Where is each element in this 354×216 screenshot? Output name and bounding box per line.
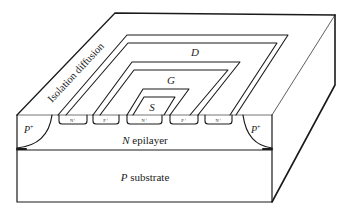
diffusion-label-4: P⁺	[181, 118, 187, 123]
diffusion-label-2: P⁺	[103, 118, 109, 123]
right-side-edge	[272, 15, 335, 202]
gate-ring-inner	[100, 70, 228, 115]
top-face-back-edges	[17, 13, 335, 115]
n-epilayer-label: N epilayer	[121, 134, 168, 146]
diffusion-label-3: N⁺	[141, 118, 147, 123]
device-diagram: N⁺ P⁺ N⁺ P⁺ N⁺ D G S Isolation diffusion…	[0, 0, 354, 216]
p-substrate-label: P substrate	[120, 171, 170, 183]
diffusion-label-1: N⁺	[70, 118, 76, 123]
gate-label: G	[167, 74, 175, 86]
front-face	[17, 115, 272, 202]
drain-label: D	[190, 46, 199, 58]
left-p-plus-label: P+	[23, 124, 34, 135]
diagram-canvas: N⁺ P⁺ N⁺ P⁺ N⁺ D G S Isolation diffusion…	[0, 0, 354, 216]
right-face-top-edge	[272, 15, 335, 115]
source-ring-outer	[127, 89, 189, 115]
right-p-plus-label: P+	[250, 124, 261, 135]
right-p-plus-region	[243, 115, 272, 148]
left-p-plus-region	[17, 115, 52, 148]
diffusion-label-5: N⁺	[215, 118, 221, 123]
source-label: S	[149, 101, 155, 113]
